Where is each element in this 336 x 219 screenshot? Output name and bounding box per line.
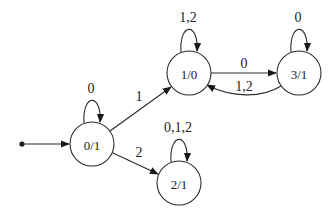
loop-2-1 [171,139,187,162]
state-label-3-1: 3/1 [291,68,308,81]
edge-label-0-1-to-2-1: 2 [136,146,143,160]
loop-1-0 [181,29,197,52]
loop-3-1 [291,29,307,52]
edge-label-1-0-to-3-1: 0 [241,57,248,71]
edge-label-3-1-to-1-0: 1,2 [235,80,253,94]
state-label-0-1: 0/1 [84,139,101,152]
loop-label-0-1: 0 [88,82,95,96]
state-label-1-0: 1/0 [181,68,198,81]
diagram-graphics [0,0,336,219]
loop-label-3-1: 0 [295,11,302,25]
loop-label-2-1: 0,1,2 [164,121,192,135]
edge-label-0-1-to-1-0: 1 [136,90,143,104]
state-label-2-1: 2/1 [171,178,188,191]
loop-label-1-0: 1,2 [179,11,197,25]
loop-0-1 [84,100,100,123]
state-diagram: 0/1 1/0 3/1 2/1 0 1,2 0 0,1,2 1 2 0 1,2 [0,0,336,219]
